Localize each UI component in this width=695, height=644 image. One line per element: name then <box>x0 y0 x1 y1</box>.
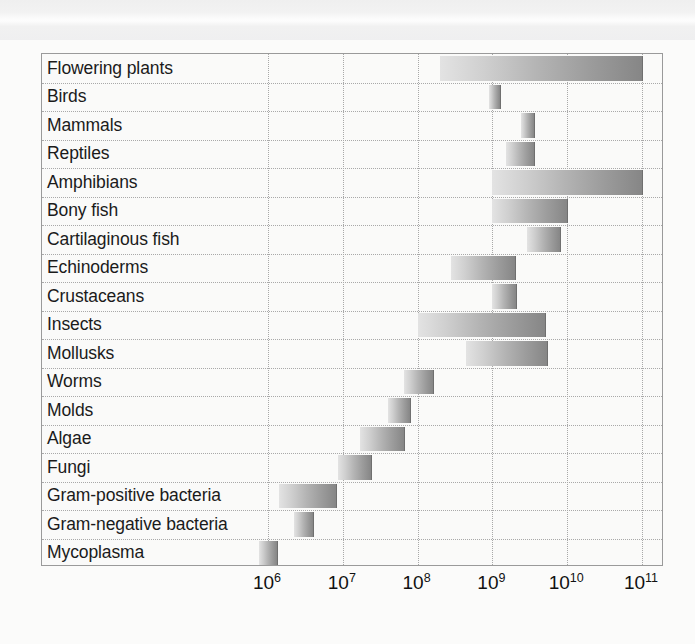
category-label: Gram-positive bacteria <box>47 487 221 505</box>
category-label: Insects <box>47 316 102 334</box>
chart-row[interactable]: Cartilaginous fish <box>42 225 662 254</box>
category-label: Gram-negative bacteria <box>47 516 228 534</box>
chart-row[interactable]: Mammals <box>42 111 662 140</box>
range-bar[interactable] <box>294 512 314 537</box>
category-label: Fungi <box>47 459 90 477</box>
chart-row[interactable]: Mollusks <box>42 339 662 368</box>
range-bar[interactable] <box>418 313 546 338</box>
chart-row[interactable]: Echinoderms <box>42 254 662 283</box>
scan-top-band <box>0 0 695 40</box>
x-axis-tick-label: 109 <box>477 572 505 594</box>
category-label: Mollusks <box>47 345 114 363</box>
chart-row[interactable]: Bony fish <box>42 197 662 226</box>
x-axis-tick-label: 1011 <box>624 572 658 594</box>
chart-row[interactable]: Reptiles <box>42 140 662 169</box>
x-axis-tick-label: 106 <box>253 572 281 594</box>
range-bar[interactable] <box>527 227 561 252</box>
category-label: Amphibians <box>47 174 137 192</box>
category-label: Worms <box>47 373 102 391</box>
range-bar[interactable] <box>489 85 501 110</box>
chart-row[interactable]: Flowering plants <box>42 54 662 83</box>
range-bar[interactable] <box>404 370 434 395</box>
range-bar[interactable] <box>279 484 337 509</box>
chart-row[interactable]: Worms <box>42 368 662 397</box>
category-label: Mammals <box>47 117 122 135</box>
x-axis-tick-label: 107 <box>328 572 356 594</box>
chart-row[interactable]: Fungi <box>42 453 662 482</box>
chart-row[interactable]: Molds <box>42 396 662 425</box>
range-bar[interactable] <box>506 142 535 167</box>
range-bar[interactable] <box>388 398 412 423</box>
range-bar[interactable] <box>338 455 373 480</box>
x-axis-tick-label: 108 <box>403 572 431 594</box>
chart-row[interactable]: Crustaceans <box>42 282 662 311</box>
range-bar[interactable] <box>521 113 535 138</box>
range-bar[interactable] <box>466 341 547 366</box>
category-label: Algae <box>47 430 91 448</box>
category-label: Crustaceans <box>47 288 144 306</box>
category-label: Cartilaginous fish <box>47 231 179 249</box>
range-bar[interactable] <box>492 284 517 309</box>
chart-row[interactable]: Gram-positive bacteria <box>42 482 662 511</box>
category-label: Reptiles <box>47 145 109 163</box>
chart-row[interactable]: Insects <box>42 311 662 340</box>
range-bar[interactable] <box>451 256 516 281</box>
range-bar[interactable] <box>360 427 405 452</box>
x-axis-tick-label: 1010 <box>549 572 584 594</box>
category-label: Flowering plants <box>47 60 173 78</box>
range-bar[interactable] <box>440 56 643 81</box>
chart-row[interactable]: Mycoplasma <box>42 539 662 568</box>
category-label: Echinoderms <box>47 259 148 277</box>
chart-row[interactable]: Birds <box>42 83 662 112</box>
range-bar[interactable] <box>259 541 278 566</box>
category-label: Birds <box>47 88 86 106</box>
category-label: Mycoplasma <box>47 544 144 562</box>
range-bar[interactable] <box>492 199 568 224</box>
category-label: Molds <box>47 402 93 420</box>
x-axis-tick-labels: 10610710810910101011 <box>41 568 663 608</box>
chart-plot-area: Flowering plantsBirdsMammalsReptilesAmph… <box>41 53 663 566</box>
category-label: Bony fish <box>47 202 118 220</box>
chart-row[interactable]: Gram-negative bacteria <box>42 510 662 539</box>
range-bar[interactable] <box>492 170 643 195</box>
chart-row[interactable]: Algae <box>42 425 662 454</box>
chart-rows: Flowering plantsBirdsMammalsReptilesAmph… <box>42 54 662 565</box>
chart-row[interactable]: Amphibians <box>42 168 662 197</box>
